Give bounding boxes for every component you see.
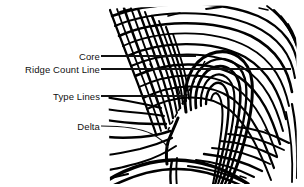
label-type-lines: Type Lines — [53, 91, 100, 102]
label-delta: Delta — [77, 121, 100, 132]
label-core: Core — [79, 51, 100, 62]
fingerprint-diagram — [0, 0, 304, 187]
label-ridge-count-line: Ridge Count Line — [25, 64, 100, 75]
